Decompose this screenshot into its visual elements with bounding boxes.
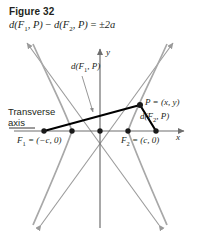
label-transverse-axis: Transverseaxis bbox=[8, 106, 55, 128]
leader-line-df1p bbox=[82, 76, 93, 112]
label-point-p: P = (x, y) bbox=[145, 98, 179, 107]
label-df1p-post: , P) bbox=[87, 61, 100, 71]
label-distance-f1-p: d(F1, P) bbox=[71, 62, 100, 74]
point-focus-1 bbox=[41, 128, 46, 133]
label-transverse-line1: Transverse bbox=[8, 106, 55, 117]
label-df2p-pre: d(F bbox=[140, 111, 153, 121]
point-p bbox=[137, 102, 143, 108]
label-focus-2: F2 = (c, 0) bbox=[121, 136, 159, 148]
label-focus-1: F1 = (−c, 0) bbox=[17, 136, 61, 148]
label-y-axis: y bbox=[106, 48, 110, 57]
label-transverse-line2: axis bbox=[8, 117, 25, 128]
label-df2p-post: , P) bbox=[156, 111, 169, 121]
point-vertex-left bbox=[69, 128, 74, 133]
point-origin bbox=[97, 128, 102, 133]
point-vertex-right bbox=[125, 128, 130, 133]
asymptote-positive-slope bbox=[41, 43, 173, 225]
label-distance-f2-p: d(F2, P) bbox=[140, 112, 169, 124]
figure-container: Figure 32 d(F1, P) − d(F2, P) = ±2a bbox=[0, 0, 197, 241]
label-x-axis: x bbox=[176, 133, 180, 142]
label-f2-post: = (c, 0) bbox=[130, 135, 160, 145]
label-f1-post: = (−c, 0) bbox=[26, 135, 62, 145]
label-df1p-pre: d(F bbox=[71, 61, 84, 71]
point-focus-2 bbox=[153, 128, 158, 133]
